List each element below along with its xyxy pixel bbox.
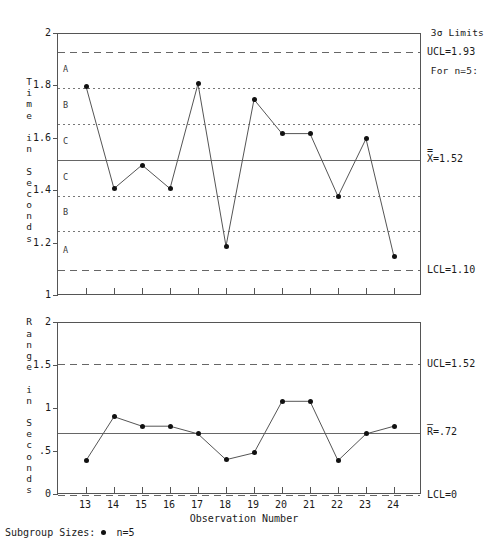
- xaxis-tick-mark: [394, 487, 395, 493]
- sigma-limits-line2: For n=5:: [431, 65, 484, 78]
- xbar-data-point[interactable]: [252, 97, 257, 102]
- xaxis-tick-label: 14: [100, 499, 126, 510]
- yaxis-title-char: n: [22, 339, 36, 350]
- xbar-lcl-label: LCL=1.10: [427, 264, 475, 275]
- range-data-point[interactable]: [392, 424, 397, 429]
- xaxis-tick-label: 17: [184, 499, 210, 510]
- xaxis-tick-label: 15: [128, 499, 154, 510]
- range-lcl-label: LCL=0: [427, 489, 457, 500]
- legend-label: Subgroup Sizes:: [5, 527, 95, 538]
- yaxis-title-char: S: [22, 417, 36, 428]
- yaxis-tick-label: 0: [19, 489, 51, 499]
- yaxis-tick-label: 1.2: [19, 238, 51, 248]
- xaxis-tick-mark: [310, 288, 311, 294]
- xaxis-tick-label: 16: [156, 499, 182, 510]
- range-data-point[interactable]: [252, 450, 257, 455]
- xaxis-tick-label: 20: [268, 499, 294, 510]
- range-data-point[interactable]: [140, 424, 145, 429]
- xbar-plot-area: ABCCBA: [58, 34, 420, 294]
- xaxis-tick-label: 19: [240, 499, 266, 510]
- xaxis-tick-mark: [366, 288, 367, 294]
- range-ucl-label: UCL=1.52: [427, 358, 475, 369]
- range-data-point[interactable]: [84, 458, 89, 463]
- yaxis-title-char: [22, 121, 36, 132]
- control-chart-page: 3σ Limits For n=5: Time in Seconds 11.21…: [0, 0, 488, 544]
- range-lcl-line: [58, 495, 420, 496]
- range-plot-area: [58, 323, 420, 493]
- yaxis-tick-label: 1.5: [19, 360, 51, 370]
- range-ucl-label-text: UCL=1.52: [427, 358, 475, 369]
- xbar-data-point[interactable]: [140, 163, 145, 168]
- range-data-point[interactable]: [308, 399, 313, 404]
- xaxis-tick-mark: [254, 487, 255, 493]
- xaxis-tick-mark: [226, 288, 227, 294]
- range-center-label-text: R=.72: [427, 426, 457, 437]
- xaxis-tick-label: 24: [380, 499, 406, 510]
- range-data-point[interactable]: [336, 458, 341, 463]
- xaxis-tick-label: 13: [72, 499, 98, 510]
- yaxis-title-char: a: [22, 328, 36, 339]
- yaxis-tick-label: 2: [19, 317, 51, 327]
- xbar-data-point[interactable]: [392, 254, 397, 259]
- xaxis-tick-mark: [142, 288, 143, 294]
- yaxis-title-char: n: [22, 210, 36, 221]
- xaxis-tick-mark: [170, 288, 171, 294]
- range-data-point[interactable]: [224, 457, 229, 462]
- xaxis-tick-mark: [282, 288, 283, 294]
- xbar-data-point[interactable]: [224, 244, 229, 249]
- xaxis-tick-mark: [338, 288, 339, 294]
- range-center-label: —R=.72: [427, 421, 457, 437]
- range-data-point[interactable]: [168, 424, 173, 429]
- xaxis-title: Observation Number: [0, 513, 488, 524]
- yaxis-title-char: [22, 372, 36, 383]
- xaxis-tick-mark: [282, 487, 283, 493]
- xbar-data-point[interactable]: [168, 186, 173, 191]
- yaxis-title-char: n: [22, 462, 36, 473]
- xaxis-tick-mark: [198, 288, 199, 294]
- xaxis-tick-mark: [86, 288, 87, 294]
- xbar-ucl-label-text: UCL=1.93: [427, 46, 475, 57]
- range-lcl-label-text: LCL=0: [427, 489, 457, 500]
- xaxis-tick-label: 18: [212, 499, 238, 510]
- legend-sample-size: n=5: [116, 527, 134, 538]
- xaxis-tick-label: 22: [324, 499, 350, 510]
- xaxis-tick-mark: [114, 288, 115, 294]
- xbar-data-point[interactable]: [196, 81, 201, 86]
- xaxis-tick-mark: [170, 487, 171, 493]
- xbar-data-point[interactable]: [112, 186, 117, 191]
- yaxis-tick-label: 1.4: [19, 185, 51, 195]
- xaxis-tick-label: 23: [352, 499, 378, 510]
- xaxis-tick-mark: [254, 288, 255, 294]
- yaxis-tick-label: 1: [19, 403, 51, 413]
- xaxis-tick-label: 21: [296, 499, 322, 510]
- xbar-data-point[interactable]: [308, 131, 313, 136]
- xbar-ucl-label: UCL=1.93: [427, 46, 475, 57]
- yaxis-title-char: e: [22, 428, 36, 439]
- range-data-point[interactable]: [280, 399, 285, 404]
- xaxis-tick-mark: [394, 288, 395, 294]
- xaxis-tick-mark: [366, 487, 367, 493]
- yaxis-title-char: o: [22, 199, 36, 210]
- yaxis-title-char: d: [22, 473, 36, 484]
- xbar-yaxis-title: Time in Seconds: [22, 76, 36, 244]
- xbar-data-point[interactable]: [84, 84, 89, 89]
- xaxis-tick-mark: [310, 487, 311, 493]
- yaxis-tick-label: 1.6: [19, 133, 51, 143]
- xaxis-tick-mark: [338, 487, 339, 493]
- sigma-limits-line1: 3σ Limits: [431, 27, 484, 40]
- yaxis-tick-label: 1.8: [19, 80, 51, 90]
- xaxis-tick-mark: [198, 487, 199, 493]
- xaxis-tick-mark: [86, 487, 87, 493]
- yaxis-title-char: e: [22, 110, 36, 121]
- range-data-point[interactable]: [112, 414, 117, 419]
- xaxis-tick-mark: [226, 487, 227, 493]
- xbar-data-point[interactable]: [280, 131, 285, 136]
- xaxis-tick-mark: [114, 487, 115, 493]
- yaxis-title-char: [22, 154, 36, 165]
- yaxis-title-char: d: [22, 221, 36, 232]
- xbar-data-point[interactable]: [364, 136, 369, 141]
- xbar-data-point[interactable]: [336, 194, 341, 199]
- yaxis-tick-label: 1: [19, 290, 51, 300]
- yaxis-title-char: S: [22, 166, 36, 177]
- xbar-lcl-label-text: LCL=1.10: [427, 264, 475, 275]
